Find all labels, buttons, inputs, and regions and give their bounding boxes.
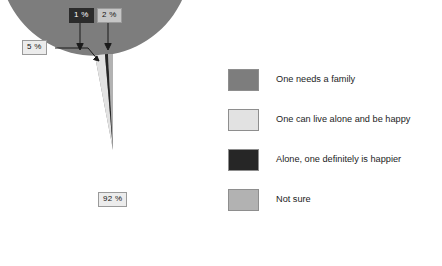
pie-chart-figure: 5 % 1 % 2 % 92 % One needs a family One … bbox=[0, 0, 442, 266]
callout-label-5-percent: 5 % bbox=[22, 40, 47, 55]
legend-swatch-icon bbox=[228, 189, 259, 211]
legend-swatch-icon bbox=[228, 69, 259, 91]
callout-label-1-percent: 1 % bbox=[69, 8, 94, 23]
pie-plot-area: 5 % 1 % 2 % 92 % bbox=[0, 0, 221, 266]
legend: One needs a family One can live alone an… bbox=[228, 60, 440, 220]
legend-item-label: One can live alone and be happy bbox=[276, 114, 410, 125]
legend-item-label: Alone, one definitely is happier bbox=[276, 154, 401, 165]
legend-item-one-needs-a-family: One needs a family bbox=[228, 60, 440, 100]
legend-swatch-icon bbox=[228, 149, 259, 171]
pie-slice-one-needs-a-family bbox=[0, 0, 191, 150]
legend-item-alone-one-definitely-is-happier: Alone, one definitely is happier bbox=[228, 140, 440, 180]
pie-value-label-92-percent: 92 % bbox=[98, 192, 127, 207]
legend-item-label: One needs a family bbox=[276, 74, 355, 85]
legend-item-label: Not sure bbox=[276, 194, 311, 205]
callout-label-2-percent: 2 % bbox=[97, 8, 122, 23]
legend-swatch-icon bbox=[228, 109, 259, 131]
legend-item-one-can-live-alone-and-be-happy: One can live alone and be happy bbox=[228, 100, 440, 140]
legend-item-not-sure: Not sure bbox=[228, 180, 440, 220]
